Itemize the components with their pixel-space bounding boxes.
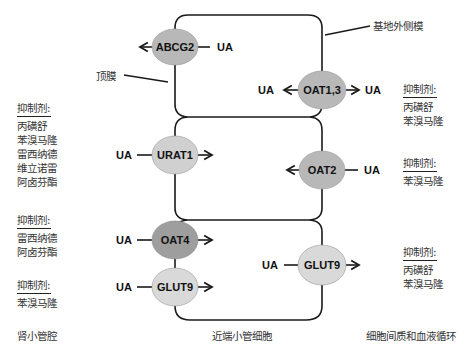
abcg2-label: ABCG2 bbox=[156, 41, 195, 53]
basolateral-callout-line bbox=[325, 26, 370, 35]
transporter-oat13: OAT1,3 UA UA bbox=[258, 71, 381, 109]
inhibitor-heading: 抑制剂: bbox=[403, 245, 437, 261]
oat4-label: OAT4 bbox=[161, 234, 190, 246]
inhibitor-drug: 雷西纳德 bbox=[17, 147, 57, 161]
inhibitor-heading: 抑制剂: bbox=[17, 213, 51, 229]
cell-1-membrane bbox=[175, 15, 322, 117]
transport-diagram: ABCG2 UA OAT1,3 UA UA URAT1 UA OAT2 UA O… bbox=[0, 0, 465, 352]
inhibitor-drug: 丙磺舒 bbox=[403, 263, 443, 277]
oat4-ua: UA bbox=[116, 234, 132, 246]
inhibitors-urat1: 抑制剂: 丙磺舒 苯溴马隆 雷西纳德 维立诺雷 阿卤芬酯 bbox=[17, 101, 57, 189]
inhibitor-drug: 丙磺舒 bbox=[403, 100, 443, 114]
oat13-label: OAT1,3 bbox=[303, 84, 341, 96]
inhibitors-glut9-basolateral: 抑制剂: 丙磺舒 苯溴马隆 bbox=[403, 245, 443, 291]
inhibitor-drug: 苯溴马隆 bbox=[403, 174, 443, 188]
inhibitor-drug: 苯溴马隆 bbox=[403, 114, 443, 128]
inhibitors-oat13: 抑制剂: 丙磺舒 苯溴马隆 bbox=[403, 82, 443, 128]
oat13-ua-left: UA bbox=[258, 84, 274, 96]
basolateral-membrane-label: 基地外侧模 bbox=[373, 18, 423, 33]
inhibitors-oat2: 抑制剂: 苯溴马隆 bbox=[403, 156, 443, 188]
transporter-glut9-apical: GLUT9 UA bbox=[116, 268, 212, 306]
inhibitor-heading: 抑制剂: bbox=[403, 82, 437, 98]
inhibitors-oat4: 抑制剂: 雷西纳德 阿卤芬酯 bbox=[17, 213, 57, 259]
inhibitor-heading: 抑制剂: bbox=[403, 156, 437, 172]
inhibitor-drug: 阿卤芬酯 bbox=[17, 245, 57, 259]
inhibitor-drug: 维立诺雷 bbox=[17, 161, 57, 175]
inhibitor-drug: 阿卤芬酯 bbox=[17, 175, 57, 189]
transporter-oat2: OAT2 UA bbox=[287, 151, 380, 189]
transporter-urat1: URAT1 UA bbox=[116, 136, 212, 174]
oat2-ua: UA bbox=[364, 164, 380, 176]
region-cell-label: 近端小管细胞 bbox=[212, 328, 272, 343]
urat1-label: URAT1 bbox=[157, 149, 193, 161]
region-interstitium-label: 细胞间质和血液循环 bbox=[366, 328, 456, 343]
inhibitor-drug: 雷西纳德 bbox=[17, 231, 57, 245]
abcg2-ua: UA bbox=[217, 41, 233, 53]
glut9-apical-ua: UA bbox=[116, 281, 132, 293]
urat1-ua: UA bbox=[116, 149, 132, 161]
oat13-ua-right: UA bbox=[365, 84, 381, 96]
apical-membrane-label: 顶膜 bbox=[96, 68, 116, 83]
inhibitor-heading: 抑制剂: bbox=[17, 278, 51, 294]
region-lumen-label: 肾小管腔 bbox=[17, 328, 57, 343]
inhibitors-glut9-apical: 抑制剂: 苯溴马隆 bbox=[17, 278, 57, 310]
apical-callout-line bbox=[124, 75, 168, 82]
oat2-label: OAT2 bbox=[308, 164, 337, 176]
glut9-basolateral-label: GLUT9 bbox=[304, 259, 340, 271]
glut9-apical-label: GLUT9 bbox=[157, 281, 193, 293]
transporter-abcg2: ABCG2 UA bbox=[140, 29, 233, 65]
inhibitor-drug: 苯溴马隆 bbox=[403, 277, 443, 291]
inhibitor-drug: 丙磺舒 bbox=[17, 119, 57, 133]
transporter-glut9-basolateral: GLUT9 UA bbox=[262, 245, 359, 285]
inhibitor-drug: 苯溴马隆 bbox=[17, 133, 57, 147]
inhibitor-drug: 苯溴马隆 bbox=[17, 296, 57, 310]
transporter-oat4: OAT4 UA bbox=[116, 221, 212, 259]
inhibitor-heading: 抑制剂: bbox=[17, 101, 51, 117]
glut9-basolateral-ua: UA bbox=[262, 259, 278, 271]
